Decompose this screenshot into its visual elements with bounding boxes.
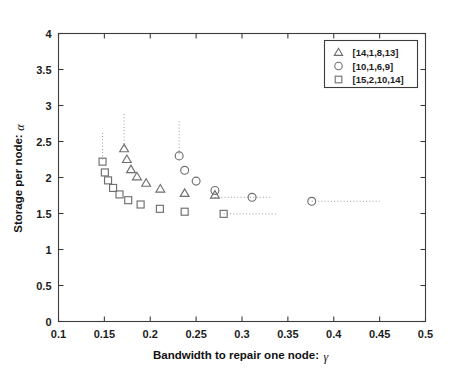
y-tick-label: 4: [45, 28, 52, 40]
data-point-circle: [192, 177, 200, 185]
data-point-circle: [175, 152, 183, 160]
series-circle: [175, 152, 315, 205]
y-tick-label: 0: [45, 316, 51, 328]
data-point-square: [137, 201, 144, 208]
y-tick-label: 0.5: [36, 280, 51, 292]
data-point-circle: [181, 166, 189, 174]
guide-lines: [103, 114, 380, 214]
data-markers: [99, 144, 316, 217]
chart-figure: 0.10.150.20.250.30.350.40.450.5 00.511.5…: [0, 0, 452, 372]
y-tick-label: 1.5: [36, 208, 51, 220]
data-point-triangle: [180, 189, 189, 197]
data-point-circle: [248, 193, 256, 201]
y-tick-label: 1: [45, 244, 51, 256]
y-tick-label: 3.5: [36, 64, 51, 76]
x-tick-label: 0.35: [277, 328, 298, 340]
data-point-square: [156, 205, 163, 212]
data-point-triangle: [142, 179, 151, 187]
series-square: [99, 158, 227, 217]
y-axis-title: Storage per node:: [12, 134, 24, 232]
legend-label: [10,1,6,9]: [353, 61, 394, 72]
y-axis-title-symbol: α: [13, 124, 27, 131]
data-point-square: [105, 177, 112, 184]
data-point-triangle: [120, 144, 129, 152]
x-axis-title: Bandwidth to repair one node:: [153, 349, 319, 361]
x-tick-label: 0.45: [369, 328, 390, 340]
data-point-triangle: [133, 172, 142, 180]
x-tick-label: 0.15: [94, 328, 115, 340]
data-point-square: [181, 208, 188, 215]
legend: [14,1,8,13][10,1,6,9][15,2,10,14]: [325, 41, 418, 88]
y-axis-tick-labels: 00.511.522.533.54: [36, 28, 52, 328]
x-tick-label: 0.2: [143, 328, 158, 340]
series-triangle: [120, 144, 220, 198]
x-tick-label: 0.5: [418, 328, 433, 340]
data-point-square: [125, 197, 132, 204]
data-point-square: [101, 169, 108, 176]
x-tick-label: 0.4: [326, 328, 342, 340]
data-point-triangle: [127, 165, 136, 173]
x-tick-label: 0.25: [185, 328, 206, 340]
x-tick-label: 0.1: [51, 328, 66, 340]
data-point-triangle: [156, 185, 165, 193]
legend-label: [15,2,10,14]: [353, 74, 404, 85]
legend-label: [14,1,8,13]: [353, 47, 399, 58]
x-axis-title-symbol: γ: [323, 350, 328, 364]
x-axis-tick-labels: 0.10.150.20.250.30.350.40.450.5: [51, 328, 433, 340]
data-point-triangle: [122, 155, 131, 163]
scatter-plot-svg: 0.10.150.20.250.30.350.40.450.5 00.511.5…: [0, 0, 452, 372]
y-tick-label: 2.5: [36, 136, 51, 148]
x-tick-label: 0.3: [234, 328, 249, 340]
y-tick-label: 3: [45, 100, 51, 112]
y-tick-label: 2: [45, 172, 51, 184]
